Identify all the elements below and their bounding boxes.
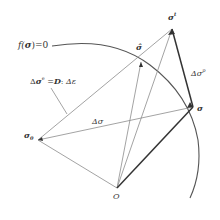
line-origin-to-shat [117, 62, 141, 188]
return-mapping-diagram: f(σ)=0 Δσe =D: Δε Δσ Δσp σ0 O σ σt σ̂ [0, 0, 220, 220]
line-trial-to-sigma [172, 29, 193, 107]
updated-stress-label: σ [197, 103, 203, 113]
line-origin-to-sigma [117, 107, 193, 188]
stress-increment-label: Δσ [91, 117, 104, 126]
elastic-increment-label: Δσe =D: Δε [30, 75, 76, 86]
yield-surface-label: f(σ)=0 [17, 40, 49, 50]
plastic-increment-label: Δσp [190, 67, 206, 78]
trial-stress-label: σt [168, 11, 177, 22]
initial-stress-label: σ0 [24, 130, 34, 141]
line-s0-to-origin [38, 140, 117, 188]
origin-label: O [113, 192, 120, 201]
yield-surface-curve [52, 43, 199, 198]
line-origin-to-trial [117, 29, 172, 188]
intermediate-stress-label: σ̂ [136, 42, 142, 52]
leader-line-elastic [51, 88, 67, 114]
arrow-head-trial [168, 29, 175, 35]
arrow-head-shat [139, 62, 143, 67]
line-s0-to-sigma [38, 107, 193, 140]
